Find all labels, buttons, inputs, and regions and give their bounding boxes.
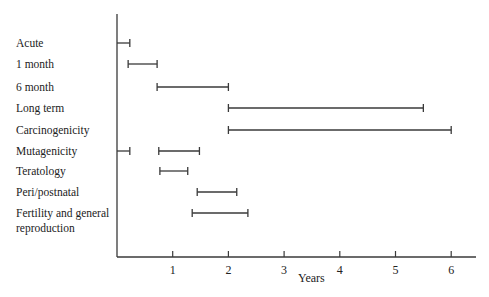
range-bar bbox=[128, 60, 157, 68]
row-label: Fertility and general bbox=[16, 206, 109, 220]
x-tick-label: 1 bbox=[170, 263, 176, 277]
row-label: Acute bbox=[16, 36, 43, 50]
range-bar bbox=[117, 147, 130, 155]
range-bar bbox=[117, 39, 130, 47]
range-bar bbox=[192, 209, 248, 217]
range-bar bbox=[228, 126, 451, 134]
range-bar bbox=[160, 167, 188, 175]
x-tick-label: 6 bbox=[448, 263, 454, 277]
range-bar bbox=[157, 83, 228, 91]
row-label: Mutagenicity bbox=[16, 144, 77, 158]
range-bar bbox=[159, 147, 200, 155]
x-axis-label: Years bbox=[298, 271, 325, 285]
range-bar bbox=[197, 188, 237, 196]
x-tick-label: 5 bbox=[393, 263, 399, 277]
x-tick-label: 4 bbox=[337, 263, 343, 277]
row-label: Teratology bbox=[16, 164, 66, 178]
row-label: Carcinogenicity bbox=[16, 123, 89, 137]
x-tick-label: 2 bbox=[225, 263, 231, 277]
axes bbox=[117, 14, 476, 257]
row-label: reproduction bbox=[16, 221, 75, 235]
range-bar bbox=[228, 104, 423, 112]
row-label: 1 month bbox=[16, 57, 54, 71]
row-label: Long term bbox=[16, 101, 64, 115]
range-bars bbox=[117, 39, 451, 217]
row-label: 6 month bbox=[16, 80, 54, 94]
x-tick-label: 3 bbox=[281, 263, 287, 277]
row-label: Peri/postnatal bbox=[16, 185, 79, 199]
